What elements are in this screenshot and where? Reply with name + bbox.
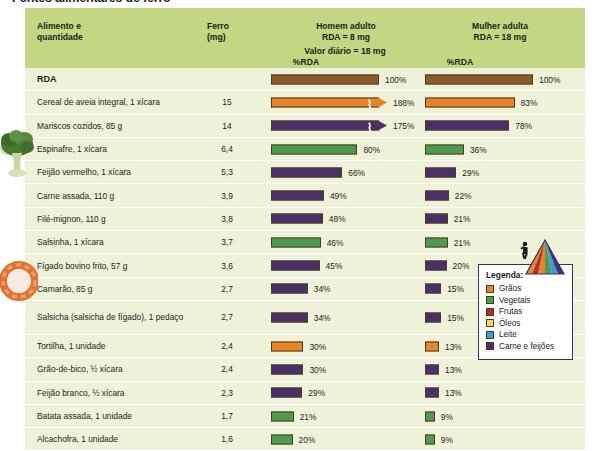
iron-mg-cell: 5,3 bbox=[207, 167, 247, 177]
axis-break-marker: ⌇ bbox=[365, 122, 373, 132]
man-rda-percent-label: 48% bbox=[329, 214, 346, 224]
man-rda-bar-group: ⌇175% bbox=[271, 120, 421, 131]
woman-rda-percent-label: 13% bbox=[445, 388, 462, 398]
woman-rda-percent-label: 21% bbox=[454, 214, 471, 224]
woman-rda-bar bbox=[425, 411, 435, 421]
woman-rda-bar bbox=[425, 341, 439, 351]
iron-mg-cell: 15 bbox=[207, 97, 247, 107]
woman-rda-bar bbox=[425, 191, 449, 201]
man-rda-percent-label: 66% bbox=[348, 167, 365, 177]
legend-item: Leite bbox=[486, 330, 566, 339]
man-rda-bar bbox=[271, 364, 303, 374]
man-rda-bar: ⌇ bbox=[271, 121, 379, 131]
woman-rda-percent-label: 29% bbox=[462, 167, 479, 177]
table-row: Alcachofra, 1 unidade1,620%9% bbox=[25, 428, 585, 451]
woman-rda-percent-label: 15% bbox=[447, 284, 464, 294]
woman-rda-bar-group: 22% bbox=[425, 190, 575, 201]
man-rda-percent-label: 34% bbox=[314, 312, 331, 322]
woman-rda-bar-group: 100% bbox=[425, 74, 575, 85]
header-woman-line2: RDA = 18 mg bbox=[425, 32, 575, 43]
legend-swatch bbox=[486, 308, 494, 316]
woman-rda-bar bbox=[425, 97, 515, 107]
food-name-cell: Espinafre, 1 xícara bbox=[37, 144, 207, 155]
table-row: Filé-mignon, 110 g3,848%21% bbox=[25, 208, 585, 231]
woman-rda-bar bbox=[425, 312, 441, 322]
legend-swatch bbox=[486, 296, 494, 304]
header-iron-line1: Ferro bbox=[207, 21, 267, 32]
food-name-cell: Feijão branco, ½ xícara bbox=[37, 387, 207, 398]
man-rda-bar bbox=[271, 312, 308, 322]
woman-rda-bar bbox=[425, 144, 464, 154]
woman-rda-bar-group: 9% bbox=[425, 434, 575, 445]
iron-mg-cell: 2,7 bbox=[207, 312, 247, 322]
food-name-cell: Grão-de-bico, ½ xícara bbox=[37, 364, 207, 375]
woman-rda-bar bbox=[425, 261, 447, 271]
legend-swatch bbox=[486, 342, 494, 350]
table-row: Mariscos cozidos, 85 g14⌇175%78% bbox=[25, 115, 585, 138]
man-rda-bar-group: 30% bbox=[271, 364, 421, 375]
header-iron-line2: (mg) bbox=[207, 32, 267, 43]
woman-rda-percent-label: 83% bbox=[521, 97, 538, 107]
man-rda-bar-group: 20% bbox=[271, 434, 421, 445]
food-name-cell: Feijão vermelho, 1 xícara bbox=[37, 167, 207, 178]
man-rda-bar-group: 80% bbox=[271, 144, 421, 155]
woman-rda-percent-label: 13% bbox=[445, 341, 462, 351]
man-rda-bar-group: 100% bbox=[271, 74, 421, 85]
man-rda-bar bbox=[271, 237, 321, 247]
woman-rda-bar-group: 78% bbox=[425, 120, 575, 131]
woman-rda-percent-label: 20% bbox=[453, 261, 470, 271]
food-name-cell: Camarão, 85 g bbox=[37, 284, 207, 295]
man-rda-bar-group: 34% bbox=[271, 312, 421, 323]
header-woman-line1: Mulher adulta bbox=[425, 21, 575, 32]
header-food-column: Alimento e quantidade bbox=[37, 21, 157, 43]
man-rda-percent-label: 21% bbox=[300, 411, 317, 421]
food-name-cell: Salsinha, 1 xícara bbox=[37, 237, 207, 248]
food-iron-table: Alimento e quantidade Ferro (mg) Homem a… bbox=[25, 8, 585, 433]
woman-rda-percent-label: 22% bbox=[455, 191, 472, 201]
header-man-column: Homem adulto RDA = 8 mg bbox=[271, 21, 421, 43]
food-name-cell: RDA bbox=[37, 74, 207, 85]
header-man-line2: RDA = 8 mg bbox=[271, 32, 421, 43]
legend-item: Carne e feijões bbox=[486, 342, 566, 351]
man-rda-percent-label: 175% bbox=[393, 121, 414, 131]
man-rda-bar bbox=[271, 74, 379, 84]
woman-rda-bar-group: 13% bbox=[425, 387, 575, 398]
legend-swatch bbox=[486, 331, 494, 339]
legend-label: Vegetais bbox=[499, 296, 530, 305]
legend-label: Grãos bbox=[499, 284, 521, 293]
legend-label: Frutas bbox=[499, 307, 522, 316]
woman-rda-bar bbox=[425, 434, 435, 444]
woman-rda-percent-label: 100% bbox=[539, 74, 560, 84]
woman-rda-percent-label: 78% bbox=[515, 121, 532, 131]
man-rda-bar: ⌇ bbox=[271, 97, 379, 107]
food-name-cell: Tortilha, 1 unidade bbox=[37, 341, 207, 352]
table-row: Cereal de aveia integral, 1 xícara15⌇188… bbox=[25, 91, 585, 114]
woman-rda-bar bbox=[425, 284, 441, 294]
iron-mg-cell: 2,3 bbox=[207, 388, 247, 398]
woman-rda-bar bbox=[425, 388, 439, 398]
axis-break-marker: ⌇ bbox=[365, 98, 373, 108]
woman-rda-percent-label: 36% bbox=[470, 144, 487, 154]
iron-mg-cell: 2,4 bbox=[207, 341, 247, 351]
legend-item: Óleos bbox=[486, 319, 566, 328]
woman-rda-bar-group: 83% bbox=[425, 97, 575, 108]
man-rda-percent-label: 80% bbox=[363, 144, 380, 154]
man-rda-percent-label: 30% bbox=[309, 364, 326, 374]
iron-mg-cell: 2,7 bbox=[207, 284, 247, 294]
header-woman-column: Mulher adulta RDA = 18 mg bbox=[425, 21, 575, 43]
woman-rda-bar-group: 13% bbox=[425, 364, 575, 375]
table-row: RDA100%100% bbox=[25, 68, 585, 91]
header-pct-rda-woman: %RDA bbox=[425, 57, 495, 68]
man-rda-percent-label: 100% bbox=[385, 74, 406, 84]
food-name-cell: Fígado bovino frito, 57 g bbox=[37, 260, 207, 271]
iron-mg-cell: 6,4 bbox=[207, 144, 247, 154]
man-rda-percent-label: 45% bbox=[326, 261, 343, 271]
shrimp-photo bbox=[0, 252, 38, 310]
legend-box: Legenda: GrãosVegetaisFrutasÓleosLeiteCa… bbox=[478, 264, 573, 360]
legend-item: Grãos bbox=[486, 284, 566, 293]
man-rda-bar-group: 66% bbox=[271, 167, 421, 178]
man-rda-bar bbox=[271, 388, 302, 398]
man-rda-bar-group: 34% bbox=[271, 283, 421, 294]
man-rda-bar-group: 46% bbox=[271, 237, 421, 248]
man-rda-bar-group: 48% bbox=[271, 213, 421, 224]
